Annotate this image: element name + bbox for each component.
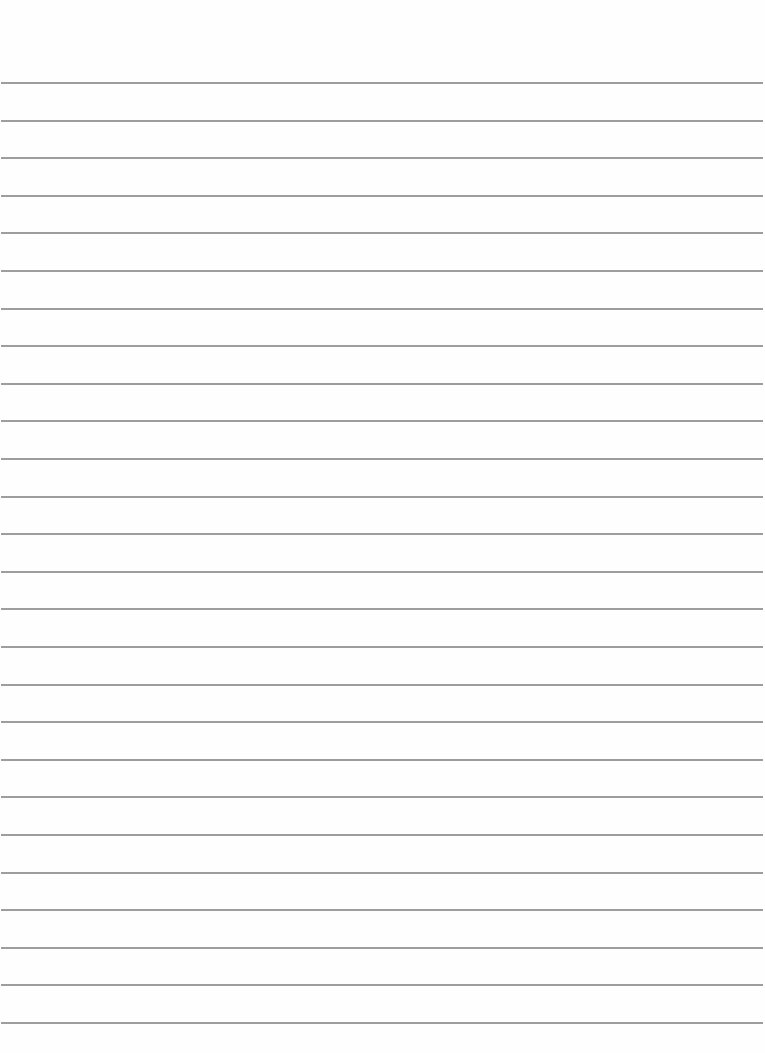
- ruled-line: [1, 496, 763, 498]
- ruled-line: [1, 909, 763, 911]
- ruled-line: [1, 947, 763, 949]
- ruled-line: [1, 232, 763, 234]
- ruled-line: [1, 571, 763, 573]
- ruled-line: [1, 533, 763, 535]
- ruled-line: [1, 796, 763, 798]
- ruled-line: [1, 984, 763, 986]
- ruled-line: [1, 608, 763, 610]
- ruled-line: [1, 721, 763, 723]
- ruled-line: [1, 834, 763, 836]
- ruled-line: [1, 345, 763, 347]
- ruled-line: [1, 120, 763, 122]
- ruled-line: [1, 872, 763, 874]
- ruled-line: [1, 684, 763, 686]
- ruled-line: [1, 420, 763, 422]
- lined-paper-page: [0, 0, 765, 1053]
- ruled-line: [1, 383, 763, 385]
- ruled-line: [1, 458, 763, 460]
- ruled-line: [1, 82, 763, 84]
- ruled-line: [1, 759, 763, 761]
- ruled-line: [1, 308, 763, 310]
- ruled-line: [1, 1022, 763, 1024]
- ruled-line: [1, 646, 763, 648]
- ruled-line: [1, 270, 763, 272]
- ruled-line: [1, 157, 763, 159]
- ruled-line: [1, 195, 763, 197]
